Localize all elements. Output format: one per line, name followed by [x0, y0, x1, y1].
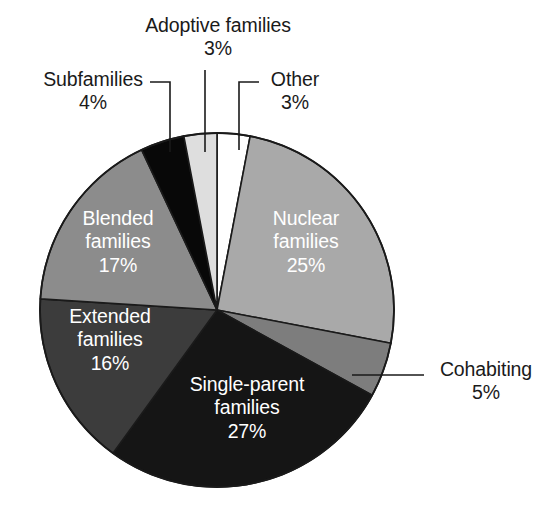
- slice-label-single-parent-families: Single-parent families 27%: [152, 373, 342, 443]
- pie-chart-figure: Adoptive families 3% Subfamilies 4% Othe…: [0, 0, 548, 514]
- slice-label-adoptive-families-name: Adoptive families: [145, 14, 291, 36]
- slice-label-single-parent-families-line2: families: [214, 396, 279, 418]
- slice-label-single-parent-families-value: 27%: [228, 420, 267, 442]
- slice-label-cohabiting: Cohabiting 5%: [428, 358, 544, 404]
- slice-label-nuclear-families-value: 25%: [287, 254, 326, 276]
- slice-label-subfamilies: Subfamilies 4%: [18, 68, 168, 114]
- slice-label-nuclear-families-line1: Nuclear: [273, 207, 340, 229]
- slice-label-subfamilies-name: Subfamilies: [43, 68, 143, 90]
- slice-label-adoptive-families-value: 3%: [118, 37, 318, 60]
- slice-label-blended-families-value: 17%: [99, 254, 138, 276]
- slice-label-blended-families-line1: Blended: [83, 207, 154, 229]
- slice-label-nuclear-families-line2: families: [273, 230, 338, 252]
- slice-label-other: Other 3%: [250, 68, 340, 114]
- slice-label-extended-families-line1: Extended: [69, 305, 151, 327]
- slice-label-adoptive-families: Adoptive families 3%: [118, 14, 318, 60]
- slice-label-blended-families: Blended families 17%: [52, 207, 184, 277]
- slice-label-extended-families-line2: families: [77, 328, 142, 350]
- slice-label-extended-families-value: 16%: [91, 352, 130, 374]
- slice-label-cohabiting-value: 5%: [428, 381, 544, 404]
- slice-label-extended-families: Extended families 16%: [40, 305, 180, 375]
- slice-label-blended-families-line2: families: [85, 230, 150, 252]
- slice-label-nuclear-families: Nuclear families 25%: [240, 207, 372, 277]
- slice-label-other-name: Other: [271, 68, 319, 90]
- slice-label-subfamilies-value: 4%: [18, 91, 168, 114]
- slice-label-other-value: 3%: [250, 91, 340, 114]
- slice-label-single-parent-families-line1: Single-parent: [190, 373, 305, 395]
- slice-label-cohabiting-name: Cohabiting: [440, 358, 532, 380]
